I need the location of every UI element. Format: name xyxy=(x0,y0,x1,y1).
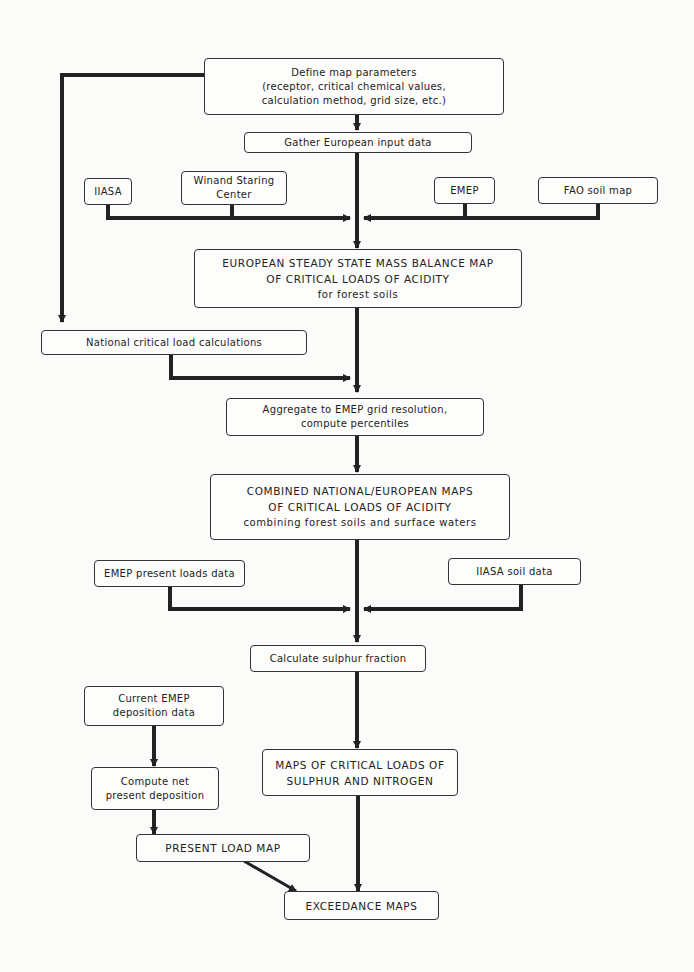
node-text: Center xyxy=(216,188,251,202)
node-text: (receptor, critical chemical values, xyxy=(262,80,446,94)
node-text: Define map parameters xyxy=(291,66,417,80)
node-iiasa-soil-data: IIASA soil data xyxy=(448,558,581,585)
node-text: Gather European input data xyxy=(284,136,432,150)
node-text: PRESENT LOAD MAP xyxy=(165,840,281,856)
node-text: EMEP present loads data xyxy=(104,567,235,581)
node-text: SULPHUR AND NITROGEN xyxy=(287,773,434,789)
node-text: IIASA soil data xyxy=(476,565,552,579)
node-aggregate-emep-grid: Aggregate to EMEP grid resolution, compu… xyxy=(226,398,484,436)
node-compute-net-deposition: Compute net present deposition xyxy=(91,767,219,810)
node-text: compute percentiles xyxy=(301,417,409,431)
node-emep-present-loads: EMEP present loads data xyxy=(94,560,245,587)
node-national-critical-load: National critical load calculations xyxy=(41,330,307,355)
node-text: Aggregate to EMEP grid resolution, xyxy=(263,403,448,417)
node-define-map-parameters: Define map parameters (receptor, critica… xyxy=(204,58,504,115)
node-text: Current EMEP xyxy=(118,692,190,706)
node-present-load-map: PRESENT LOAD MAP xyxy=(136,834,310,862)
node-winand-staring-center: Winand Staring Center xyxy=(181,171,287,205)
node-maps-sulphur-nitrogen: MAPS OF CRITICAL LOADS OF SULPHUR AND NI… xyxy=(262,749,458,796)
node-calculate-sulphur-fraction: Calculate sulphur fraction xyxy=(250,645,426,672)
node-text: Compute net xyxy=(121,775,190,789)
node-fao-soil-map: FAO soil map xyxy=(538,177,658,204)
node-emep: EMEP xyxy=(434,177,495,204)
node-gather-input-data: Gather European input data xyxy=(244,132,472,153)
node-exceedance-maps: EXCEEDANCE MAPS xyxy=(284,891,439,920)
node-text: OF CRITICAL LOADS OF ACIDITY xyxy=(268,499,451,515)
node-text: EXCEEDANCE MAPS xyxy=(305,898,417,914)
node-text: deposition data xyxy=(113,706,195,720)
node-text: Winand Staring xyxy=(194,174,275,188)
node-text: FAO soil map xyxy=(564,184,632,198)
node-text: calculation method, grid size, etc.) xyxy=(262,94,446,108)
node-text: EUROPEAN STEADY STATE MASS BALANCE MAP xyxy=(222,255,494,271)
node-text: MAPS OF CRITICAL LOADS OF xyxy=(275,757,444,773)
node-combined-maps: COMBINED NATIONAL/EUROPEAN MAPS OF CRITI… xyxy=(210,474,510,540)
node-current-emep-deposition: Current EMEP deposition data xyxy=(84,686,224,726)
node-text: National critical load calculations xyxy=(86,336,262,350)
node-iiasa: IIASA xyxy=(84,178,132,205)
node-text: Calculate sulphur fraction xyxy=(270,652,407,666)
node-text: COMBINED NATIONAL/EUROPEAN MAPS xyxy=(247,483,473,499)
node-text: present deposition xyxy=(106,789,205,803)
node-text: combining forest soils and surface water… xyxy=(243,515,476,531)
node-text: for forest soils xyxy=(318,287,399,303)
node-text: EMEP xyxy=(450,184,479,198)
node-european-steady-state-map: EUROPEAN STEADY STATE MASS BALANCE MAP O… xyxy=(194,249,522,308)
node-text: IIASA xyxy=(94,185,122,199)
node-text: OF CRITICAL LOADS OF ACIDITY xyxy=(266,271,449,287)
